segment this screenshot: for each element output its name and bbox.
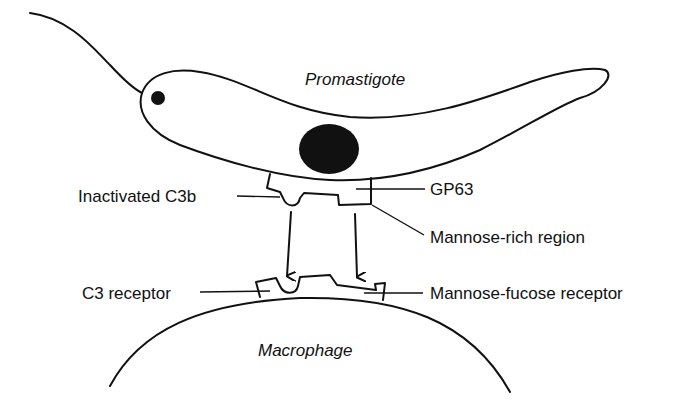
label-mannose-fucose-receptor: Mannose-fucose receptor (430, 284, 623, 303)
macrophage-receptor-complex (256, 275, 385, 300)
label-gp63: GP63 (430, 180, 473, 199)
leader-inactivated-c3b (237, 196, 280, 197)
macrophage-label: Macrophage (258, 341, 353, 360)
nucleus (299, 124, 359, 174)
diagram-canvas: Promastigote Inactivated C3b GP63 Mannos… (0, 0, 688, 408)
binding-arrow-mannose (355, 214, 357, 277)
label-mannose-rich-region: Mannose-rich region (430, 228, 585, 247)
label-inactivated-c3b: Inactivated C3b (78, 187, 196, 206)
flagellum (30, 13, 142, 93)
kinetoplast (151, 91, 165, 105)
binding-arrow-c3 (287, 212, 291, 276)
label-c3-receptor: C3 receptor (82, 284, 171, 303)
promastigote-label: Promastigote (305, 70, 405, 89)
leader-c3-receptor (200, 291, 270, 292)
leader-mannose-rich (372, 205, 424, 235)
